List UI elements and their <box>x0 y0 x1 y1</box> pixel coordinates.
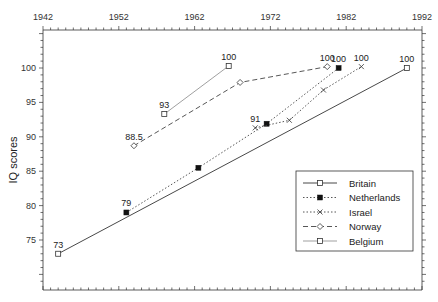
y-tick-label: 75 <box>26 235 36 245</box>
point-label: 88.5 <box>125 132 143 142</box>
legend-label: Britain <box>349 178 376 189</box>
y-axis-left: 7580859095100 <box>21 34 43 282</box>
x-tick-label: 1942 <box>33 12 53 22</box>
series-israel: 91100 <box>250 53 369 131</box>
open-square-marker-icon <box>318 181 323 186</box>
open-diamond-marker-icon <box>237 79 243 85</box>
filled-square-marker-icon <box>196 165 201 170</box>
x-marker-icon <box>253 125 258 130</box>
y-tick-label: 90 <box>26 132 36 142</box>
y-tick-label: 80 <box>26 201 36 211</box>
x-marker-icon <box>287 118 292 123</box>
filled-square-marker-icon <box>336 66 341 71</box>
y-axis-right <box>422 34 426 282</box>
legend-label: Israel <box>349 207 372 218</box>
x-tick-label: 1952 <box>109 12 129 22</box>
point-label: 93 <box>159 100 169 110</box>
open-square-marker-icon <box>318 239 323 244</box>
x-axis-top: 194219521962197219821992 <box>33 12 432 30</box>
point-label: 73 <box>53 240 63 250</box>
x-tick-label: 1992 <box>412 12 432 22</box>
x-tick-label: 1962 <box>185 12 205 22</box>
y-tick-label: 85 <box>26 166 36 176</box>
open-square-marker-icon <box>162 112 167 117</box>
filled-square-marker-icon <box>318 195 323 200</box>
legend-label: Belgium <box>349 236 383 247</box>
x-marker-icon <box>321 88 326 93</box>
y-tick-label: 100 <box>21 63 36 73</box>
point-label: 100 <box>399 54 414 64</box>
series-line <box>255 67 361 128</box>
point-label: 79 <box>121 198 131 208</box>
x-axis-bottom <box>43 286 422 290</box>
point-label: 100 <box>320 53 335 63</box>
legend-label: Norway <box>349 221 381 232</box>
open-square-marker-icon <box>226 63 231 68</box>
point-label: 91 <box>250 114 260 124</box>
x-tick-label: 1972 <box>260 12 280 22</box>
filled-square-marker-icon <box>124 210 129 215</box>
open-square-marker-icon <box>56 251 61 256</box>
point-label: 100 <box>221 52 236 62</box>
legend: BritainNetherlandsIsraelNorwayBelgium <box>296 171 413 251</box>
open-square-marker-icon <box>404 66 409 71</box>
open-diamond-marker-icon <box>324 64 330 70</box>
x-tick-label: 1982 <box>336 12 356 22</box>
series-belgium: 93100 <box>159 52 236 117</box>
open-diamond-marker-icon <box>131 143 137 149</box>
legend-label: Netherlands <box>349 192 400 203</box>
y-tick-label: 95 <box>26 97 36 107</box>
y-axis-label: IQ scores <box>7 136 19 184</box>
iq-scores-chart: 194219521962197219821992 7580859095100 I… <box>0 0 438 302</box>
point-label: 100 <box>354 53 369 63</box>
x-marker-icon <box>359 64 364 69</box>
series-line <box>164 66 228 114</box>
